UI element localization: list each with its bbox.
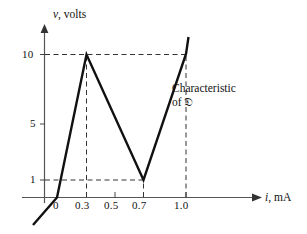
y-tick-label-1: 1 [30, 174, 36, 185]
y-axis-title: v, volts [53, 9, 86, 21]
x-axis-unit: , mA [268, 191, 291, 203]
x-tick-label-0: 0 [53, 200, 59, 211]
x-axis-title: i, mA [265, 192, 291, 204]
y-axis-unit: , volts [58, 8, 86, 20]
curve-annotation: Characteristic of 𝔇 [172, 82, 236, 109]
x-axis-ticks [87, 192, 187, 198]
x-tick-label-0.5: 0.5 [104, 200, 118, 211]
y-tick-label-10: 10 [22, 49, 33, 60]
y-axis-arrow-icon [41, 24, 49, 33]
characteristic-curve-figure: v, volts i, mA 10 5 1 0 0.3 0.5 0.7 1.0 … [0, 0, 307, 234]
curve-annotation-line2: of 𝔇 [172, 96, 236, 110]
x-axis-arrow-icon [252, 194, 262, 202]
x-tick-label-0.3: 0.3 [75, 200, 89, 211]
guide-lines [45, 55, 186, 198]
x-tick-label-1.0: 1.0 [174, 200, 188, 211]
curve-annotation-line1: Characteristic [172, 82, 236, 96]
y-tick-label-5: 5 [30, 118, 36, 129]
chart-canvas [0, 0, 307, 234]
curve-annotation-prefix: of [172, 96, 184, 108]
x-tick-label-0.7: 0.7 [132, 200, 146, 211]
curve-annotation-symbol: 𝔇 [184, 95, 193, 109]
characteristic-curve [33, 37, 189, 225]
